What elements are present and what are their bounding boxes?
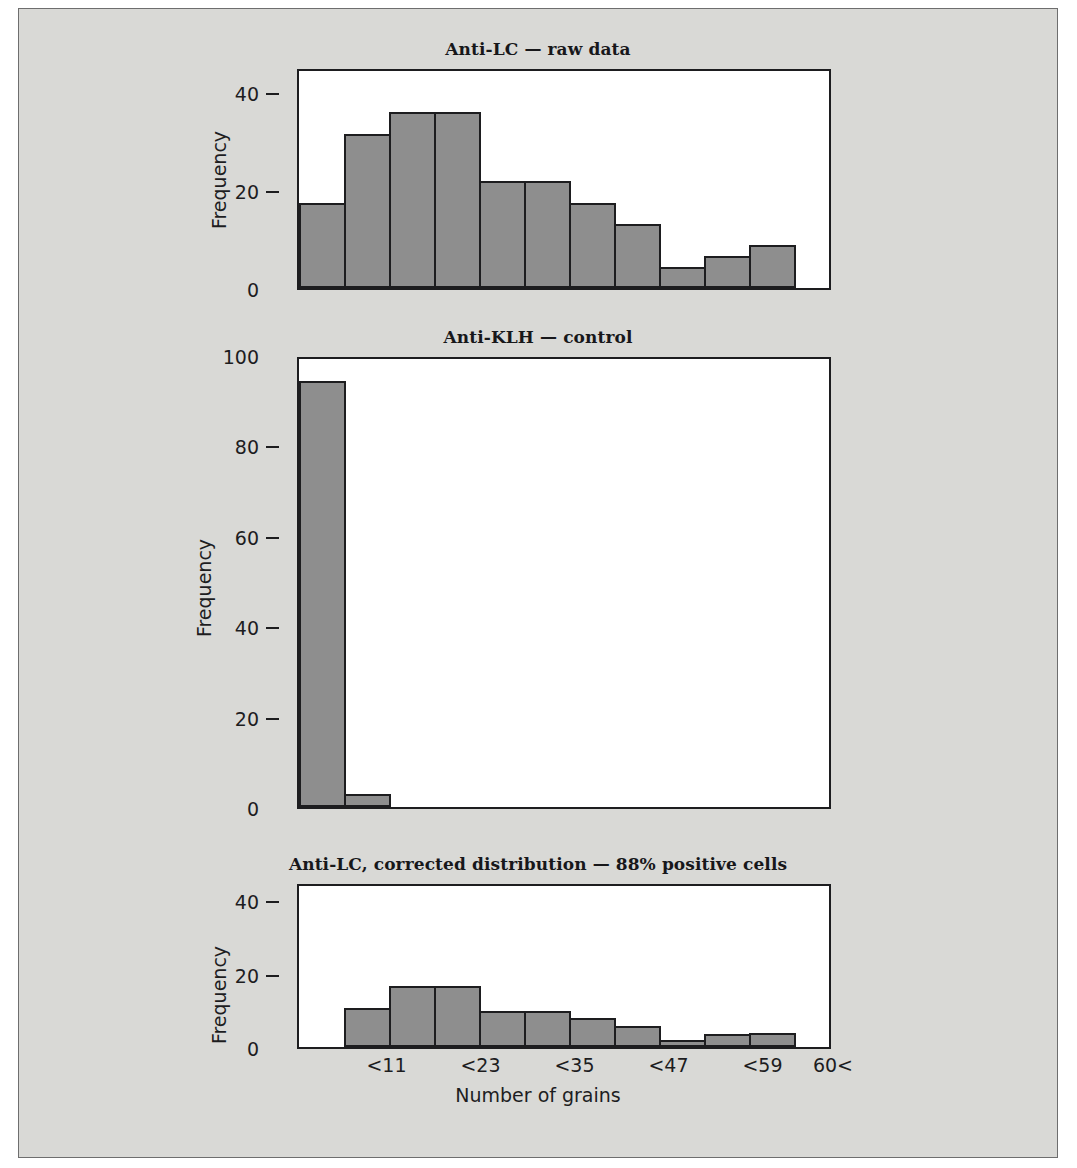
panel-1-yaxis: 0 20 40 bbox=[179, 69, 279, 290]
panel-1-bars bbox=[299, 71, 813, 288]
panel-3-yaxis: 0 20 40 bbox=[179, 884, 279, 1049]
panel-anti-lc-corrected: Anti-LC, corrected distribution — 88% po… bbox=[19, 854, 1057, 1144]
panel-3-ytick-label: 20 bbox=[235, 965, 259, 987]
bar bbox=[704, 1034, 751, 1047]
bar bbox=[299, 381, 346, 807]
bar bbox=[659, 267, 706, 288]
xtick-lt-47: <47 bbox=[648, 1054, 688, 1076]
bar bbox=[659, 1040, 706, 1047]
bar bbox=[344, 794, 391, 807]
bar bbox=[434, 112, 481, 288]
panel-2-title: Anti-KLH — control bbox=[19, 327, 1057, 347]
bar bbox=[704, 256, 751, 288]
bar bbox=[749, 1033, 796, 1047]
tick-mark bbox=[266, 446, 279, 448]
tick-mark bbox=[266, 627, 279, 629]
panel-1-ytick-label: 20 bbox=[235, 181, 259, 203]
figure-page: Anti-LC — raw data Frequency 0 20 40 bbox=[18, 8, 1058, 1158]
panel-3-ytick-label: 40 bbox=[235, 891, 259, 913]
tick-mark bbox=[266, 537, 279, 539]
panel-2-ytick-label: 60 bbox=[235, 527, 259, 549]
panel-1-plot-area bbox=[297, 69, 831, 290]
bar bbox=[479, 1011, 526, 1047]
bar bbox=[524, 181, 571, 288]
bar bbox=[614, 1026, 661, 1047]
bar bbox=[344, 1008, 391, 1047]
xtick-lt-35: <35 bbox=[554, 1054, 594, 1076]
tick-mark bbox=[266, 718, 279, 720]
panel-2-plot-area bbox=[297, 357, 831, 809]
panel-2-ytick-label: 40 bbox=[235, 617, 259, 639]
panel-3-bars bbox=[299, 886, 813, 1047]
xtick-lt-11: <11 bbox=[366, 1054, 406, 1076]
panel-anti-lc-raw: Anti-LC — raw data Frequency 0 20 40 bbox=[19, 39, 1057, 309]
tick-mark bbox=[266, 93, 279, 95]
panel-2-bars bbox=[299, 359, 813, 807]
bar bbox=[569, 203, 616, 288]
bar bbox=[434, 986, 481, 1047]
panel-anti-klh-control: Anti-KLH — control Frequency 0 20 40 60 bbox=[19, 327, 1057, 817]
xtick-lt-23: <23 bbox=[460, 1054, 500, 1076]
panel-1-ytick-label: 40 bbox=[235, 83, 259, 105]
panel-3-title: Anti-LC, corrected distribution — 88% po… bbox=[19, 854, 1057, 874]
panel-2-ytick-label: 0 bbox=[247, 798, 259, 820]
bar bbox=[479, 181, 526, 288]
panel-2-ytick-label: 80 bbox=[235, 436, 259, 458]
bar bbox=[569, 1018, 616, 1047]
bar bbox=[524, 1011, 571, 1047]
panel-1-title: Anti-LC — raw data bbox=[19, 39, 1057, 59]
bar bbox=[299, 203, 346, 288]
bar bbox=[749, 245, 796, 288]
bar bbox=[389, 112, 436, 288]
tick-mark bbox=[266, 975, 279, 977]
bar bbox=[614, 224, 661, 288]
tick-mark bbox=[266, 901, 279, 903]
histogram-figure: Anti-LC — raw data Frequency 0 20 40 bbox=[19, 9, 1057, 1157]
panel-2-ytick-label: 20 bbox=[235, 708, 259, 730]
tick-mark bbox=[266, 191, 279, 193]
xtick-60-gt: 60< bbox=[813, 1054, 853, 1076]
x-axis-label: Number of grains bbox=[19, 1084, 1057, 1106]
panel-3-plot-area bbox=[297, 884, 831, 1049]
panel-2-yaxis: 0 20 40 60 80 bbox=[179, 357, 279, 809]
xtick-lt-59: <59 bbox=[742, 1054, 782, 1076]
panel-3-ytick-label: 0 bbox=[247, 1038, 259, 1060]
bar bbox=[389, 986, 436, 1047]
x-axis-ticks: <11 <23 <35 <47 <59 60< bbox=[297, 1054, 831, 1080]
panel-2-ytick-label: 100 bbox=[223, 346, 259, 368]
panel-1-ytick-label: 0 bbox=[247, 279, 259, 301]
bar bbox=[344, 134, 391, 289]
